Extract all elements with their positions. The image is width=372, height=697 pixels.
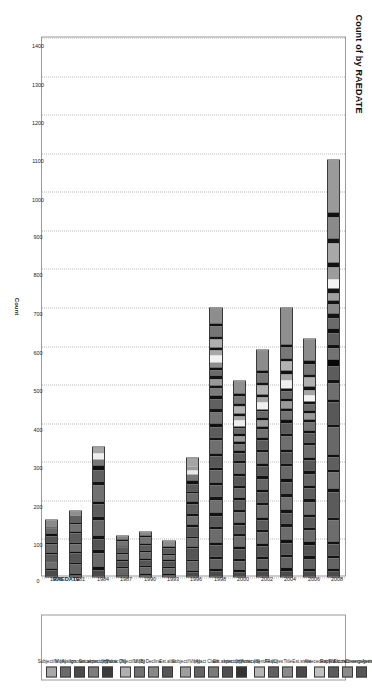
bar-row[interactable] — [186, 37, 199, 575]
bar-segment — [328, 469, 339, 472]
value-tick-label: 100 — [34, 542, 43, 548]
stacked-bar[interactable] — [186, 457, 199, 577]
bar-row[interactable] — [69, 37, 82, 575]
bar-segment — [210, 350, 221, 355]
legend-item[interactable]: Subject/IV (A) — [179, 617, 192, 677]
legend-item[interactable]: Title — [281, 617, 294, 677]
legend-item[interactable]: Rapport/cois — [327, 617, 340, 677]
stacked-bar[interactable] — [45, 519, 58, 577]
legend-item[interactable]: Est.zero-nero — [341, 617, 354, 677]
stacked-bar[interactable] — [256, 349, 269, 577]
bar-segment — [281, 452, 292, 463]
bar-segment — [140, 552, 151, 558]
legend-item[interactable]: Est.aspect (H) — [87, 617, 100, 677]
legend-item[interactable]: Motivation — [59, 617, 72, 677]
bar-segment — [328, 558, 339, 567]
bar-segment — [234, 420, 245, 426]
bar-segment — [328, 328, 339, 333]
bar-segment — [210, 412, 221, 424]
value-tick-label: 400 — [34, 426, 43, 432]
bar-segment — [93, 465, 104, 470]
legend-item[interactable]: Intm.daphonic (N) — [235, 617, 248, 677]
bar-segment — [187, 516, 198, 524]
stacked-bar[interactable] — [327, 159, 340, 578]
bar-row[interactable] — [327, 37, 340, 575]
bar-segment — [187, 493, 198, 501]
bar-segment — [93, 520, 104, 534]
bar-segment — [210, 500, 221, 513]
bar-segment — [93, 566, 104, 570]
bar-segment — [210, 347, 221, 350]
bar-segment — [328, 402, 339, 424]
legend-item[interactable]: Est.alter — [161, 617, 174, 677]
stacked-bar[interactable] — [92, 446, 105, 577]
bar-segment — [328, 359, 339, 367]
bar-row[interactable] — [256, 37, 269, 575]
bar-segment — [281, 408, 292, 412]
bar-segment — [234, 453, 245, 461]
legend-label: Title — [283, 659, 292, 664]
bar-row[interactable] — [162, 37, 175, 575]
legend-swatch — [222, 666, 233, 677]
legend-item[interactable]: Impact — [193, 617, 206, 677]
legend-item[interactable]: Clash — [207, 617, 220, 677]
value-tick-label: 500 — [34, 388, 43, 394]
legend-item[interactable]: Intm.daphonic (N) — [101, 617, 114, 677]
bar-row[interactable] — [233, 37, 246, 575]
legend-item[interactable]: Antecedent/IR (C) — [253, 617, 266, 677]
legend-item[interactable]: Features — [267, 617, 280, 677]
category-tick-label: 2002 — [261, 575, 273, 581]
legend-swatch — [180, 666, 191, 677]
bar-row[interactable] — [303, 37, 316, 575]
legend-item[interactable]: Value Object/IV (B) — [119, 617, 132, 677]
bar-segment — [234, 500, 245, 509]
bar-segment — [304, 527, 315, 530]
bar-row[interactable] — [209, 37, 222, 575]
legend-swatch — [102, 666, 113, 677]
legend-item[interactable]: Decline — [147, 617, 160, 677]
value-tick-label: 900 — [34, 233, 43, 239]
category-tick-label: 1996 — [191, 575, 203, 581]
stacked-bar[interactable] — [303, 338, 316, 577]
bars-layer — [42, 37, 345, 575]
legend-item[interactable]: Subject/IV (A) — [45, 617, 58, 677]
bar-segment — [187, 548, 198, 559]
legend-item[interactable]: Est.smile — [295, 617, 308, 677]
bar-segment — [210, 496, 221, 499]
bar-row[interactable] — [139, 37, 152, 575]
bar-segment — [304, 498, 315, 501]
legend-item[interactable]: Ignorance — [73, 617, 86, 677]
legend-swatch — [328, 666, 339, 677]
legend-item[interactable]: Est.aspect (H) — [221, 617, 234, 677]
bar-segment — [281, 478, 292, 482]
bar-segment — [257, 532, 268, 543]
bar-segment — [328, 217, 339, 238]
bar-segment — [210, 370, 221, 375]
stacked-bar[interactable] — [116, 535, 129, 577]
bar-row[interactable] — [116, 37, 129, 575]
stacked-bar[interactable] — [139, 531, 152, 577]
bar-segment — [187, 474, 198, 480]
legend-column: Antecedent/RVRapport/coisEst.zero-neroDi… — [313, 617, 368, 677]
bar-segment — [304, 517, 315, 527]
stacked-bar[interactable] — [69, 510, 82, 578]
stacked-bar[interactable] — [233, 380, 246, 577]
value-tick-label: 1300 — [32, 81, 44, 87]
legend-swatch — [60, 666, 71, 677]
bar-row[interactable] — [92, 37, 105, 575]
legend-item[interactable]: Disengagement — [355, 617, 368, 677]
stacked-bar[interactable] — [209, 307, 222, 577]
stacked-bar[interactable] — [280, 307, 293, 577]
bar-segment — [210, 362, 221, 367]
bar-segment — [328, 279, 339, 288]
legend-item[interactable]: Antecedent/RV — [313, 617, 326, 677]
bar-row[interactable] — [45, 37, 58, 575]
legend-item[interactable]: Utility — [133, 617, 146, 677]
bar-segment — [281, 374, 292, 380]
legend-swatch — [254, 666, 265, 677]
bar-segment — [210, 482, 221, 485]
stacked-bar[interactable] — [162, 540, 175, 577]
bar-segment — [140, 537, 151, 543]
bar-row[interactable] — [280, 37, 293, 575]
bar-segment — [257, 350, 268, 370]
